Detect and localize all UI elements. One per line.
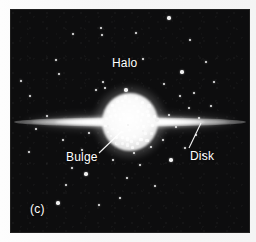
panel-label: (c): [30, 202, 45, 216]
label-halo: Halo: [112, 56, 137, 70]
bulge-speckle-dot: [128, 129, 131, 132]
bulge-speckle-dot: [140, 119, 143, 122]
halo-star: [179, 95, 181, 97]
bulge-speckle-dot: [147, 120, 150, 123]
halo-star: [210, 105, 212, 107]
halo-star: [95, 89, 97, 91]
halo-star: [101, 34, 103, 36]
bulge-speckle-dot: [147, 114, 149, 116]
halo-star: [213, 81, 215, 83]
halo-star: [100, 27, 102, 29]
bulge-star-speckles: [103, 94, 157, 150]
halo-star: [35, 128, 37, 130]
halo-star: [169, 158, 172, 161]
halo-star: [56, 201, 59, 204]
halo-star: [126, 177, 128, 179]
bulge-speckle-dot: [118, 107, 121, 110]
bulge-speckle-dot: [130, 140, 132, 142]
bulge-speckle-dot: [133, 135, 136, 138]
bulge-speckle-dot: [109, 115, 112, 118]
bulge-speckle-dot: [141, 113, 144, 116]
bulge-speckle-dot: [126, 143, 129, 146]
halo-star: [193, 92, 196, 95]
disk-outer-glow: [23, 111, 237, 133]
bulge-speckle-dot: [151, 124, 154, 127]
halo-star: [71, 167, 73, 169]
halo-star: [150, 146, 152, 148]
halo-star: [119, 197, 122, 200]
bulge-speckle-dot: [139, 138, 142, 141]
halo-star: [142, 58, 144, 60]
bulge-speckle-dot: [133, 105, 135, 107]
halo-star: [127, 124, 130, 127]
bulge-speckle-dot: [121, 142, 124, 145]
halo-star: [46, 115, 48, 117]
halo-star: [104, 87, 107, 90]
bulge-speckle-dot: [145, 139, 148, 142]
halo-star: [124, 88, 127, 91]
bulge-speckle-dot: [130, 117, 133, 120]
halo-star: [188, 107, 190, 109]
bulge-speckle-dot: [116, 100, 119, 103]
halo-star: [205, 61, 207, 63]
bulge-speckle-dot: [146, 110, 149, 113]
halo-star: [116, 141, 119, 144]
bulge-speckle-dot: [140, 106, 142, 108]
halo-star: [175, 126, 177, 128]
halo-star: [112, 159, 115, 162]
halo-star: [167, 16, 170, 19]
bulge-speckle-dot: [111, 128, 113, 130]
halo-star: [195, 134, 197, 136]
figure-root: Halo Bulge Disk (c): [0, 0, 256, 242]
bulge-speckle-dot: [113, 109, 116, 112]
halo-star: [180, 70, 183, 73]
bulge-speckle-dot: [114, 114, 117, 117]
disk-main-layer: [14, 118, 246, 127]
halo-star: [29, 95, 32, 98]
halo-star: [98, 204, 100, 206]
bulge-speckle-dot: [128, 100, 131, 103]
bulge-speckle-dot: [135, 121, 138, 124]
label-bulge: Bulge: [66, 150, 98, 164]
bulge-speckle-dot: [110, 135, 113, 138]
halo-star: [184, 147, 186, 149]
bulge-speckle-dot: [144, 132, 147, 135]
bulge-speckle-dot: [107, 131, 109, 133]
halo-star: [88, 132, 90, 134]
label-disk: Disk: [190, 149, 214, 163]
bulge-speckle-dot: [115, 136, 118, 139]
bulge-speckle-dot: [123, 104, 126, 107]
bulge-speckle-dot: [131, 146, 134, 149]
bulge-speckle-dot: [126, 137, 130, 141]
bulge-speckle-dot: [142, 125, 145, 128]
bulge-speckle-dot: [128, 110, 130, 112]
halo-star: [189, 39, 192, 42]
halo-star: [55, 59, 57, 61]
bulge-speckle-dot: [147, 104, 150, 107]
halo-star: [102, 81, 104, 83]
bulge-speckle-dot: [112, 120, 114, 122]
halo-star: [163, 83, 165, 85]
halo-star: [107, 125, 109, 127]
bulge-speckle-dot: [125, 117, 127, 119]
bulge-speckle-dot: [150, 132, 153, 135]
bulge-speckle-dot: [119, 118, 122, 121]
sky-background-noise: [11, 10, 249, 232]
halo-star: [135, 32, 137, 34]
bulge-speckle-dot: [121, 136, 124, 139]
bulge-speckle-dot: [119, 124, 121, 126]
bulge-speckle-dot: [136, 126, 139, 129]
halo-star: [142, 130, 145, 133]
halo-star: [28, 151, 31, 154]
bulge-glow: [94, 86, 166, 158]
halo-star: [168, 114, 170, 116]
bulge-speckle-dot: [122, 113, 125, 116]
bulge-speckle-dot: [117, 129, 119, 131]
halo-star: [72, 33, 75, 36]
bulge-speckle-dot: [121, 131, 123, 133]
bulge-speckle-dot: [105, 117, 108, 120]
galaxy-disk: [11, 10, 249, 232]
bulge-speckle-dot: [135, 97, 138, 100]
bulge-speckle-dot: [107, 110, 110, 113]
halo-star: [58, 73, 61, 76]
